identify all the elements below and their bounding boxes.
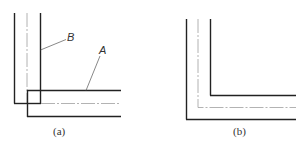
- label-a: A: [98, 44, 106, 56]
- diagram-canvas: B A (a) (b): [0, 0, 306, 148]
- diagram-svg: B A (a) (b): [0, 0, 306, 148]
- caption-b: (b): [233, 125, 246, 138]
- caption-a: (a): [53, 125, 66, 138]
- leader-a: [86, 56, 100, 91]
- label-b: B: [67, 31, 74, 43]
- leader-b: [41, 40, 67, 51]
- panel-a: B A (a): [14, 13, 121, 138]
- center-line: [198, 19, 296, 108]
- panel-b: (b): [186, 19, 296, 138]
